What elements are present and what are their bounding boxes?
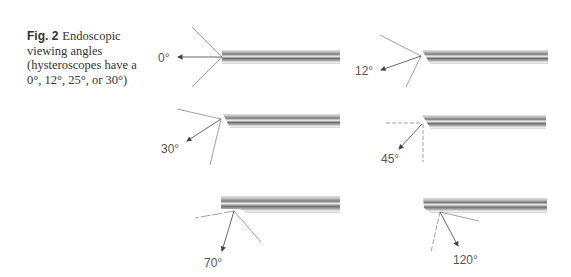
angle-label-30: 30° xyxy=(161,142,179,156)
angle-label-70: 70° xyxy=(204,256,222,270)
angle-label-0: 0° xyxy=(158,51,170,65)
angle-label-45: 45° xyxy=(381,152,399,166)
scope-120-degree: 120° xyxy=(423,198,547,267)
scope-70-degree: 70° xyxy=(195,196,340,270)
scope-30-degree: 30° xyxy=(161,109,340,165)
scope-0-degree: 0° xyxy=(158,27,340,87)
viewing-angles-diagram: 0° 12° 30° 45° 70° 120° xyxy=(0,0,571,277)
angle-label-120: 120° xyxy=(453,253,478,267)
scope-12-degree: 12° xyxy=(355,35,548,87)
angle-label-12: 12° xyxy=(355,64,373,78)
scope-45-degree: 45° xyxy=(381,115,546,166)
